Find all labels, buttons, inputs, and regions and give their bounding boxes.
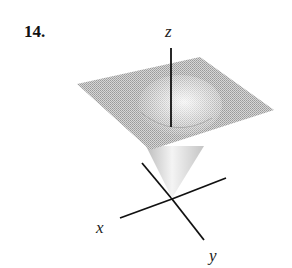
surface-plot	[0, 0, 292, 268]
y-axis	[172, 199, 204, 240]
z-axis-label: z	[165, 22, 172, 42]
x-axis-label: x	[96, 218, 104, 238]
y-axis-label: y	[209, 246, 217, 266]
funnel-opening	[138, 75, 222, 135]
x-axis	[120, 199, 172, 218]
